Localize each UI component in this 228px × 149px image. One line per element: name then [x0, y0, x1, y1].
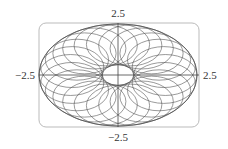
rosette-loop: [127, 70, 190, 111]
rosette-loop: [127, 39, 190, 80]
rosette-loop: [41, 47, 104, 88]
rosette-loop: [74, 25, 137, 66]
x-axis-left-label: −2.5: [15, 69, 35, 81]
y-axis-top-label: 2.5: [111, 7, 125, 19]
rosette-loop: [63, 81, 126, 122]
rosette-loop: [132, 62, 195, 103]
rosette-loop: [45, 70, 108, 111]
rosette-loop: [41, 62, 104, 103]
x-axis-right-label: 2.5: [203, 69, 217, 81]
y-axis-bottom-label: −2.5: [108, 131, 128, 143]
rosette-plot: 2.5 −2.5 −2.5 2.5: [0, 0, 228, 149]
rosette-loop: [99, 25, 162, 66]
rosette-loop: [45, 39, 108, 80]
rosette-loop: [99, 84, 162, 125]
rosette-loop: [74, 84, 137, 125]
rosette-loop: [110, 28, 173, 69]
rosette-loop: [132, 47, 195, 88]
